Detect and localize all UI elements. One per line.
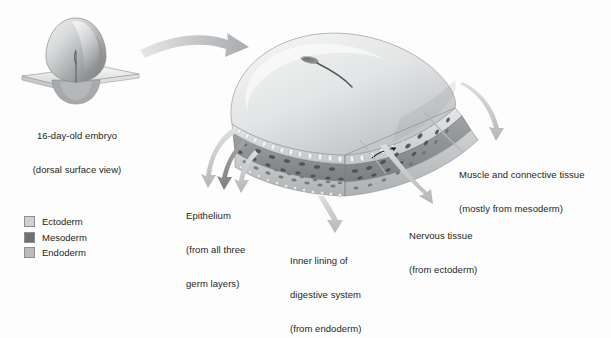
legend-item-mesoderm: Mesoderm: [24, 230, 87, 246]
embryo-body: [46, 18, 106, 82]
callout-nervous-line1: Nervous tissue: [409, 230, 477, 241]
legend-swatch-mesoderm: [24, 232, 35, 243]
germ-layer-legend: Ectoderm Mesoderm Endoderm: [24, 214, 87, 261]
callout-muscle-line2: (mostly from mesoderm): [459, 203, 585, 214]
embryo-cutaway-block: [231, 33, 478, 197]
embryo-caption: 16-day-old embryo (dorsal surface view): [12, 108, 142, 186]
embryo-inset: [22, 18, 139, 104]
legend-label-mesoderm: Mesoderm: [42, 232, 87, 243]
embryo-lower-body: [52, 80, 100, 104]
callout-muscle-connective: Muscle and connective tissue (mostly fro…: [459, 147, 585, 225]
legend-swatch-endoderm: [24, 247, 35, 258]
legend-label-endoderm: Endoderm: [42, 247, 86, 258]
legend-swatch-ectoderm: [24, 216, 35, 227]
embryo-caption-line2: (dorsal surface view): [12, 164, 142, 175]
embryo-caption-line1: 16-day-old embryo: [12, 130, 142, 141]
callout-muscle-line1: Muscle and connective tissue: [459, 169, 585, 180]
callout-digestive-line1: Inner lining of: [290, 255, 362, 266]
legend-item-ectoderm: Ectoderm: [24, 214, 87, 230]
callout-epithelium: Epithelium (from all three germ layers): [186, 188, 245, 300]
callout-digestive-line3: (from endoderm): [290, 323, 362, 334]
legend-item-endoderm: Endoderm: [24, 245, 87, 261]
callout-digestive-lining: Inner lining of digestive system (from e…: [290, 233, 362, 338]
legend-label-ectoderm: Ectoderm: [42, 216, 83, 227]
digestive-lining-arrow: [318, 196, 343, 233]
callout-nervous-line2: (from ectoderm): [409, 264, 477, 275]
callout-epithelium-line1: Epithelium: [186, 210, 245, 221]
callout-epithelium-line3: germ layers): [186, 278, 245, 289]
callout-epithelium-line2: (from all three: [186, 244, 245, 255]
zoom-transition-arrow: [140, 33, 249, 58]
callout-digestive-line2: digestive system: [290, 289, 362, 300]
